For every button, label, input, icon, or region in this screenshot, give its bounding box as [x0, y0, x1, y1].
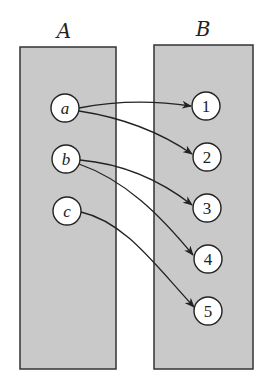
node-c-label: c: [63, 202, 71, 221]
node-2-label: 2: [203, 148, 212, 167]
node-a-label: a: [61, 99, 70, 118]
node-b: b: [52, 145, 80, 173]
set-a: A: [20, 19, 116, 369]
set-a-label: A: [55, 19, 71, 43]
node-3-label: 3: [203, 199, 212, 218]
node-4: 4: [194, 245, 222, 273]
node-3: 3: [193, 194, 221, 222]
node-a: a: [51, 94, 79, 122]
node-5-label: 5: [204, 302, 213, 321]
mapping-diagram: A B a b c 1 2: [0, 0, 273, 386]
node-2: 2: [193, 143, 221, 171]
node-1-label: 1: [202, 97, 211, 116]
domain-nodes: a b c: [51, 94, 81, 225]
node-c: c: [53, 197, 81, 225]
node-b-label: b: [62, 150, 71, 169]
node-4-label: 4: [204, 250, 213, 269]
node-5: 5: [194, 297, 222, 325]
set-b-label: B: [195, 17, 211, 41]
node-1: 1: [192, 92, 220, 120]
